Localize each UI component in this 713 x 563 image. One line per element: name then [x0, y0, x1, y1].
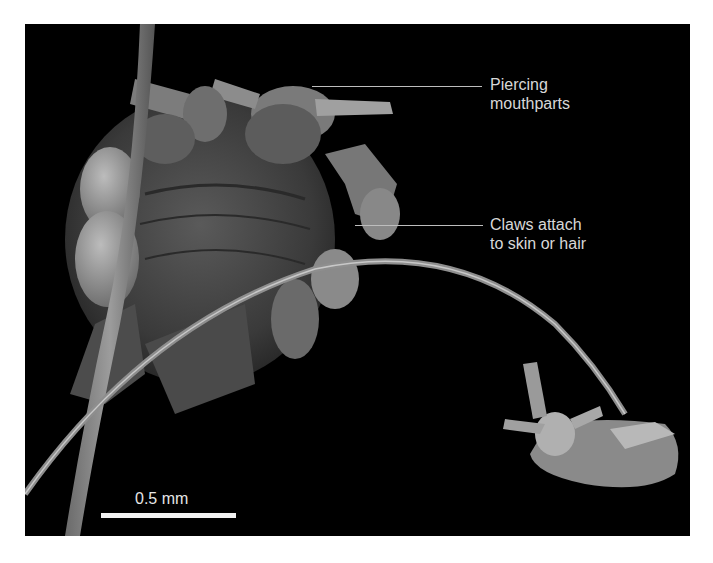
micrograph-frame — [25, 24, 690, 536]
label-claws-attach: Claws attach to skin or hair — [490, 215, 586, 253]
scale-bar-label: 0.5 mm — [135, 490, 188, 508]
label-piercing-mouthparts: Piercing mouthparts — [490, 75, 570, 113]
leader-line-mouthparts — [312, 86, 482, 87]
label-line: mouthparts — [490, 94, 570, 113]
label-line: to skin or hair — [490, 234, 586, 253]
label-line: Claws attach — [490, 215, 586, 234]
micrograph-image — [25, 24, 690, 536]
louse-large — [65, 79, 400, 414]
label-line: Piercing — [490, 75, 570, 94]
louse-small — [503, 362, 678, 487]
leader-line-claws — [355, 225, 483, 226]
scale-bar — [101, 513, 236, 518]
cropped-caption-strip — [0, 0, 713, 6]
